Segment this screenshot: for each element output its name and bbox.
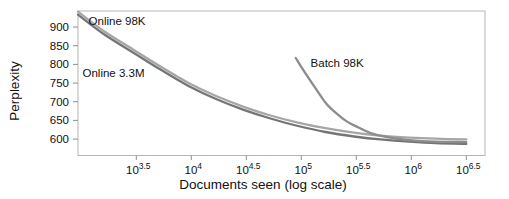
x-axis-title: Documents seen (log scale) [63,177,463,192]
x-tick-label: 105 [295,161,313,176]
x-tick-label: 106 [405,161,423,176]
x-tick-label: 104 [185,161,203,176]
y-tick-label: 600 [50,133,69,145]
series-label-batch-98k: Batch 98K [311,57,364,69]
y-tick-label: 750 [50,77,69,89]
series-label-online-3-3m: Online 3.3M [83,67,145,79]
x-tick-label: 103.5 [126,161,151,176]
y-axis-title: Perplexity [7,61,22,120]
y-tick-label: 850 [50,40,69,52]
plot-panel-border [78,11,485,156]
x-tick-label: 104.5 [236,161,261,176]
y-tick-label: 900 [50,21,69,33]
line-chart-canvas: 900850800750700650600103.5104104.5105105… [0,0,509,199]
y-tick-label: 700 [50,96,69,108]
x-tick-label: 105.5 [346,161,371,176]
y-tick-label: 650 [50,114,69,126]
series-line-online-3-3m [78,15,466,144]
perplexity-vs-documents-figure: 900850800750700650600103.5104104.5105105… [0,0,509,199]
series-label-online-98k: Online 98K [89,15,146,27]
y-tick-label: 800 [50,58,69,70]
x-tick-label: 106.5 [456,161,481,176]
series-line-batch-98k [296,58,467,142]
